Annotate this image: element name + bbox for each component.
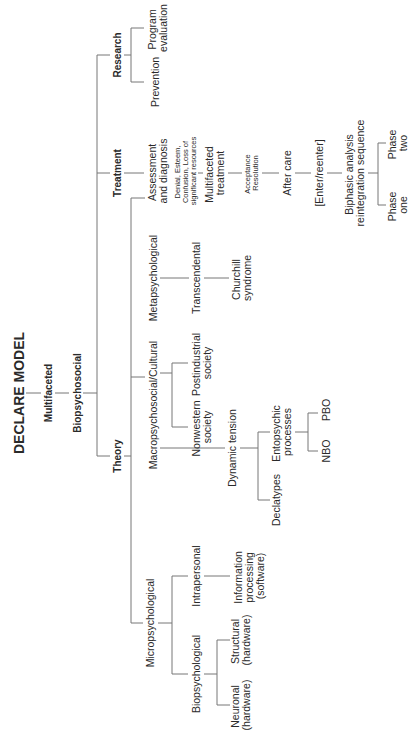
macropsychosocial-node: Macropsychosocial/Cultural xyxy=(147,341,159,469)
transcendental-node: Transcendental xyxy=(190,242,202,314)
phase-one-node: Phase one xyxy=(386,189,409,222)
assessment-node: Assessment and diagnosis xyxy=(146,139,169,204)
biopsychosocial-label: Biopsychosocial xyxy=(72,353,83,433)
information-processing-node: Information processing (software) xyxy=(232,548,266,603)
multifaceted-treatment-node: Multifaceted treatment xyxy=(203,143,226,203)
prevention-node: Prevention xyxy=(149,57,161,107)
phase-two-node: Phase two xyxy=(386,127,409,160)
treatment-node: Treatment xyxy=(112,148,123,196)
multifaceted-label: Multifaceted xyxy=(43,364,54,422)
metapsychological-node: Metapsychological xyxy=(147,235,159,321)
biphasic-node: Biphasic analysis reintegration sequence xyxy=(343,119,366,226)
micropsychological-node: Micropsychological xyxy=(144,579,156,668)
intrapersonal-node: Intrapersonal xyxy=(190,545,202,606)
entopsychic-processes-node: Entopsychic processes xyxy=(270,402,293,462)
assessment-notes: Denial, Esteem, Confusion, Loss of signi… xyxy=(173,137,198,206)
declatypes-node: Declatypes xyxy=(270,474,282,526)
multifaceted-notes: Acceptance Resolution xyxy=(243,152,260,193)
diagram-title: DECLARE MODEL xyxy=(11,332,27,455)
declare-model-diagram: DECLARE MODEL Multifaceted Biopsychosoci… xyxy=(0,0,418,734)
dynamic-tension-node: Dynamic tension xyxy=(226,409,238,487)
enter-reenter-node: [Enter/reenter] xyxy=(313,139,325,206)
neuronal-hardware-node: Neuronal (hardware) xyxy=(229,680,252,731)
pbo-node: PBO xyxy=(320,399,332,421)
program-evaluation-node: Program evaluation xyxy=(146,4,169,52)
theory-node: Theory xyxy=(112,439,123,473)
biopsychological-node: Biopsychological xyxy=(190,635,202,713)
nbo-node: NBO xyxy=(320,440,332,463)
after-care-node: After care xyxy=(281,150,293,196)
research-node: Research xyxy=(112,32,123,77)
postindustrial-society-node: Postindustrial society xyxy=(190,330,213,396)
structural-hardware-node: Structural (hardware) xyxy=(229,615,252,666)
churchill-syndrome-node: Churchill syndrome xyxy=(230,255,253,301)
